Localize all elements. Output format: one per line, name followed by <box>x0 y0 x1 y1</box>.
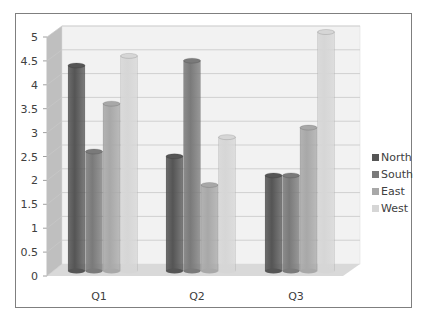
legend-label: South <box>381 168 413 181</box>
y-tick-label: 1 <box>31 222 38 235</box>
bar-north-q1 <box>68 63 85 274</box>
bar-south-q1 <box>86 149 103 274</box>
y-tick-label: 2.5 <box>21 151 39 164</box>
legend: NorthSouthEastWest <box>372 151 413 215</box>
legend-label: North <box>381 151 412 164</box>
bar-west-q2 <box>219 135 236 274</box>
bar-south-q3 <box>283 173 300 274</box>
x-axis: Q1Q2Q3 <box>91 290 304 303</box>
bar-west-q3 <box>318 30 335 274</box>
legend-swatch <box>372 154 379 161</box>
y-tick-label: 3.5 <box>21 103 39 116</box>
bar-east-q1 <box>103 101 120 273</box>
legend-item-north: North <box>372 151 412 164</box>
x-category-label: Q3 <box>288 290 304 303</box>
bar-south-q2 <box>184 58 201 273</box>
x-category-label: Q1 <box>91 290 107 303</box>
y-tick-label: 0 <box>31 270 38 283</box>
bar-chart: 00.511.522.533.544.55 Q1Q2Q3 NorthSouthE… <box>0 0 422 321</box>
y-tick-label: 0.5 <box>21 246 39 259</box>
bar-east-q2 <box>201 182 218 273</box>
legend-label: West <box>381 202 409 215</box>
legend-label: East <box>381 185 405 198</box>
y-tick-label: 4 <box>31 79 38 92</box>
y-tick-label: 1.5 <box>21 198 39 211</box>
y-tick-label: 5 <box>31 31 38 44</box>
y-tick-label: 4.5 <box>21 55 39 68</box>
legend-swatch <box>372 188 379 195</box>
legend-swatch <box>372 205 379 212</box>
y-tick-label: 3 <box>31 127 38 140</box>
legend-item-west: West <box>372 202 409 215</box>
legend-item-south: South <box>372 168 413 181</box>
bar-west-q1 <box>121 53 138 273</box>
legend-item-east: East <box>372 185 405 198</box>
bar-east-q3 <box>300 125 317 273</box>
x-category-label: Q2 <box>189 290 205 303</box>
legend-swatch <box>372 171 379 178</box>
y-axis: 00.511.522.533.544.55 <box>21 31 48 283</box>
bar-north-q2 <box>166 154 183 274</box>
bar-north-q3 <box>265 173 282 274</box>
y-tick-label: 2 <box>31 174 38 187</box>
